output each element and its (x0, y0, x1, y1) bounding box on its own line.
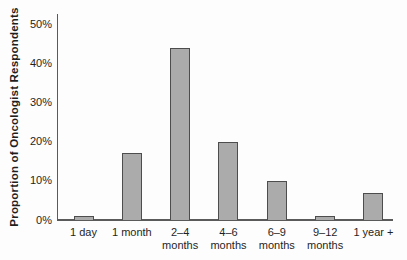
y-tick-label: 20% (30, 135, 52, 148)
bar-2–4-months (170, 48, 190, 220)
y-tick-label: 30% (30, 96, 52, 109)
y-tick-label: 10% (30, 174, 52, 187)
y-axis-title: Proportion of Oncologist Respondents (8, 7, 20, 226)
bar-1-month (122, 153, 142, 220)
y-tick-label: 40% (30, 57, 52, 70)
bar-4–6-months (218, 142, 238, 220)
y-axis-line (57, 14, 59, 221)
bar-chart-figure: Proportion of Oncologist Respondents 0%1… (0, 0, 407, 260)
bar-1-year-+ (363, 193, 383, 220)
y-tick-label: 50% (30, 18, 52, 31)
x-tick-label: 1 year + (341, 226, 405, 239)
bar-9–12-months (315, 216, 335, 220)
y-tick-label: 0% (36, 214, 52, 227)
bar-1-day (74, 216, 94, 220)
bar-6–9-months (267, 181, 287, 220)
